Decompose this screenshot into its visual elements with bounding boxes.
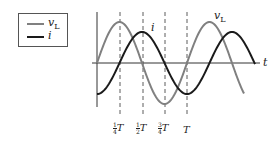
tick-half-T: 12T [136, 122, 147, 135]
i-curve-label: i [151, 21, 155, 34]
vL-curve-label: vL [214, 9, 226, 24]
tick-T: T [183, 124, 190, 135]
t-axis-label: t [263, 56, 267, 69]
tick-three-quarter-T: 34T [158, 122, 169, 135]
tick-quarter-T: 14T [113, 122, 124, 135]
